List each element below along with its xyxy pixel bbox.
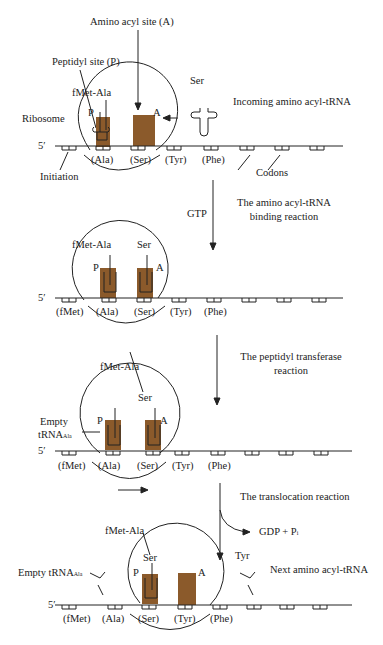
five-prime: 5′ [38,293,46,304]
codon-label: (Ser) [137,461,158,472]
five-prime: 5′ [48,600,56,611]
peptide-label: fMet-Ala [100,362,139,373]
a-site: A [153,108,161,119]
gtp-label: GTP [187,209,207,220]
codon-label: (fMet) [58,461,85,472]
empty-trna-label: Empty tRNAAla [18,568,82,579]
codon-label: (Tyr) [170,307,191,318]
next-label: Next amino acyl-tRNA [270,565,368,576]
codon-label: (Tyr) [174,614,195,625]
codon-label: (Ser) [130,155,151,166]
peptide-label: fMet-Ala [72,240,111,251]
five-prime: 5′ [38,141,46,152]
a-site: A [156,263,164,274]
codon-label: (Phe) [210,614,233,625]
gdp-pi-label: GDP + Pi [259,527,298,538]
peptidyl-transferase-label: The peptidyl transferase reaction [236,350,346,377]
peptide-label: fMet-Ala [105,526,144,537]
codon-label: (Ser) [138,614,159,625]
codon-label: (Phe) [208,461,231,472]
ribosome-label: Ribosome [22,114,65,125]
p-site: P [88,108,94,119]
aa-trna-label: Ser [143,553,157,564]
aa-trna-label: Ser [138,393,152,404]
incoming-aa-label: Ser [190,76,204,87]
aa-trna-label: Ser [137,240,151,251]
a-site: A [198,568,206,579]
codon-label: (Ala) [102,614,124,625]
empty-label: Empty [40,417,68,428]
codon-label: (Ala) [96,307,118,318]
codon-label: (Phe) [204,307,227,318]
initiation-label: Initiation [40,172,79,183]
p-site: P [93,263,99,274]
binding-reaction-label: The amino acyl-tRNA binding reaction [234,196,334,223]
codon-label: (fMet) [56,307,83,318]
empty-trna-label: tRNAAla [38,430,72,441]
incoming-label: Incoming amino acyl-tRNA [233,97,351,108]
codon-label: (Ala) [98,461,120,472]
codon-label: (Phe) [202,155,225,166]
amino-acyl-site-label: Amino acyl site (A) [90,17,174,28]
five-prime: 5′ [38,446,46,457]
codon-label: (Tyr) [172,461,193,472]
codon-label: (Ala) [91,155,113,166]
next-aa-label: Tyr [235,551,249,562]
p-site: P [133,568,139,579]
translocation-label: The translocation reaction [240,492,350,503]
codons-label: Codons [256,168,288,179]
p-site: P [97,416,103,427]
codon-label: (Ser) [134,307,155,318]
codon-label: (Tyr) [165,155,186,166]
peptide-label: fMet-Ala [72,88,111,99]
peptidyl-site-label: Peptidyl site (P) [52,57,120,68]
a-site: A [160,416,168,427]
codon-label: (fMet) [63,614,90,625]
